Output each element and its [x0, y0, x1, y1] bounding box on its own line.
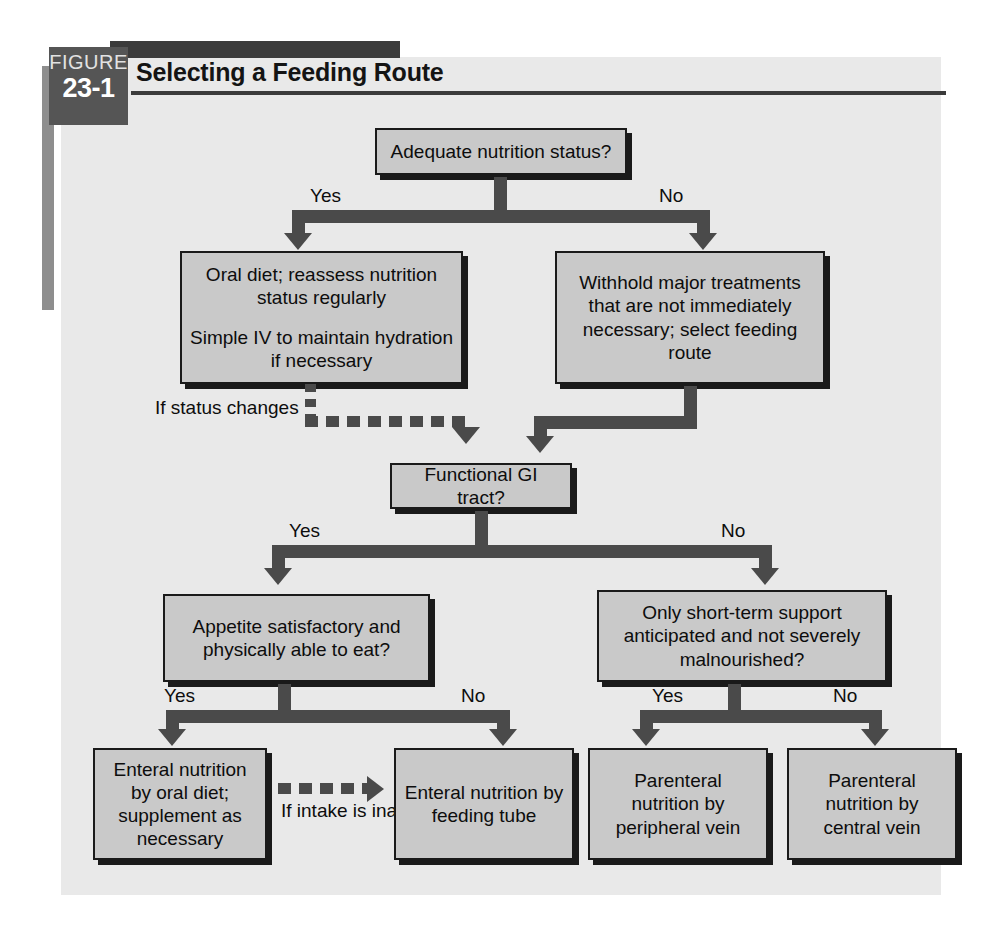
connector-drop-shortterm-left [640, 710, 653, 731]
connector-stem-appetite [278, 684, 291, 710]
branch-label-yes-2: Yes [289, 520, 320, 542]
figure-tab: FIGURE 23-1 [49, 47, 128, 125]
connector-stem-withhold [684, 386, 697, 416]
dashed-connector-status-vertical [305, 384, 316, 416]
box-appetite-satisfactory: Appetite satisfactory and physically abl… [163, 594, 430, 682]
connector-bar-level3 [272, 545, 772, 558]
connector-drop-shortterm-right [869, 710, 882, 731]
figure-number: 23-1 [49, 73, 128, 104]
arrow-level1-yes [284, 233, 312, 250]
arrow-appetite-yes [158, 729, 186, 746]
arrow-withhold-to-gi [526, 436, 554, 453]
box-enteral-feeding-tube: Enteral nutrition by feeding tube [394, 748, 574, 860]
arrow-level3-yes [264, 568, 292, 585]
branch-label-yes-3: Yes [164, 685, 195, 707]
box-oral-diet-line1: Oral diet; reassess nutrition status reg… [190, 263, 453, 309]
arrow-appetite-no [489, 729, 517, 746]
connector-bar-withhold [534, 416, 697, 429]
box-withhold-treatments: Withhold major treatments that are not i… [555, 251, 825, 384]
connector-stem-shortterm [728, 684, 741, 710]
box-enteral-feeding-tube-text: Enteral nutrition by feeding tube [404, 781, 564, 827]
branch-label-no-2: No [721, 520, 745, 542]
connector-stem-level1 [494, 177, 507, 210]
box-appetite-satisfactory-text: Appetite satisfactory and physically abl… [173, 615, 420, 661]
connector-drop-appetite-left [166, 710, 179, 731]
connector-drop-level3-left [272, 545, 285, 570]
branch-label-no-1: No [659, 185, 683, 207]
figure-root: FIGURE 23-1 Selecting a Feeding Route Ad… [0, 0, 997, 930]
branch-label-no-4: No [833, 685, 857, 707]
connector-drop-level1-right [697, 210, 710, 235]
dashed-connector-status-horizontal [305, 416, 467, 427]
box-adequate-nutrition-text: Adequate nutrition status? [391, 140, 612, 163]
dashed-connector-intake [278, 783, 370, 794]
box-parenteral-central: Parenteral nutrition by central vein [787, 748, 957, 860]
box-withhold-treatments-text: Withhold major treatments that are not i… [565, 271, 815, 364]
connector-drop-level3-right [759, 545, 772, 570]
connector-bar-appetite [166, 710, 510, 723]
box-functional-gi: Functional GI tract? [390, 463, 572, 509]
branch-label-yes-4: Yes [652, 685, 683, 707]
connector-drop-level1-left [292, 210, 305, 235]
label-if-intake-inadequate: If intake is inadequate [281, 800, 369, 823]
box-oral-diet: Oral diet; reassess nutrition status reg… [180, 251, 463, 384]
figure-title: Selecting a Feeding Route [136, 58, 444, 87]
box-enteral-oral-diet-text: Enteral nutrition by oral diet; suppleme… [103, 758, 257, 851]
connector-stem-level3 [475, 511, 488, 545]
connector-bar-level1 [292, 210, 710, 223]
box-short-term-support-text: Only short-term support anticipated and … [607, 601, 877, 671]
box-parenteral-peripheral: Parenteral nutrition by peripheral vein [588, 748, 768, 860]
arrow-dashed-intake [367, 776, 384, 802]
arrow-shortterm-no [861, 729, 889, 746]
box-oral-diet-line2: Simple IV to maintain hydration if neces… [190, 326, 453, 372]
box-parenteral-peripheral-text: Parenteral nutrition by peripheral vein [598, 769, 758, 839]
header-top-bar [110, 41, 400, 58]
box-enteral-oral-diet: Enteral nutrition by oral diet; suppleme… [93, 748, 267, 860]
arrow-level1-no [689, 233, 717, 250]
branch-label-no-3: No [461, 685, 485, 707]
arrow-dashed-status-changes [452, 427, 480, 444]
figure-label-word: FIGURE [49, 51, 128, 74]
box-short-term-support: Only short-term support anticipated and … [597, 590, 887, 682]
arrow-shortterm-yes [632, 729, 660, 746]
connector-drop-appetite-right [497, 710, 510, 731]
box-adequate-nutrition: Adequate nutrition status? [375, 128, 627, 175]
header-rule [131, 91, 946, 95]
connector-drop-withhold [534, 416, 547, 438]
arrow-level3-no [751, 568, 779, 585]
branch-label-yes-1: Yes [310, 185, 341, 207]
connector-bar-shortterm [640, 710, 882, 723]
box-parenteral-central-text: Parenteral nutrition by central vein [797, 769, 947, 839]
box-functional-gi-text: Functional GI tract? [400, 463, 562, 509]
branch-label-if-status-changes: If status changes [155, 397, 299, 419]
